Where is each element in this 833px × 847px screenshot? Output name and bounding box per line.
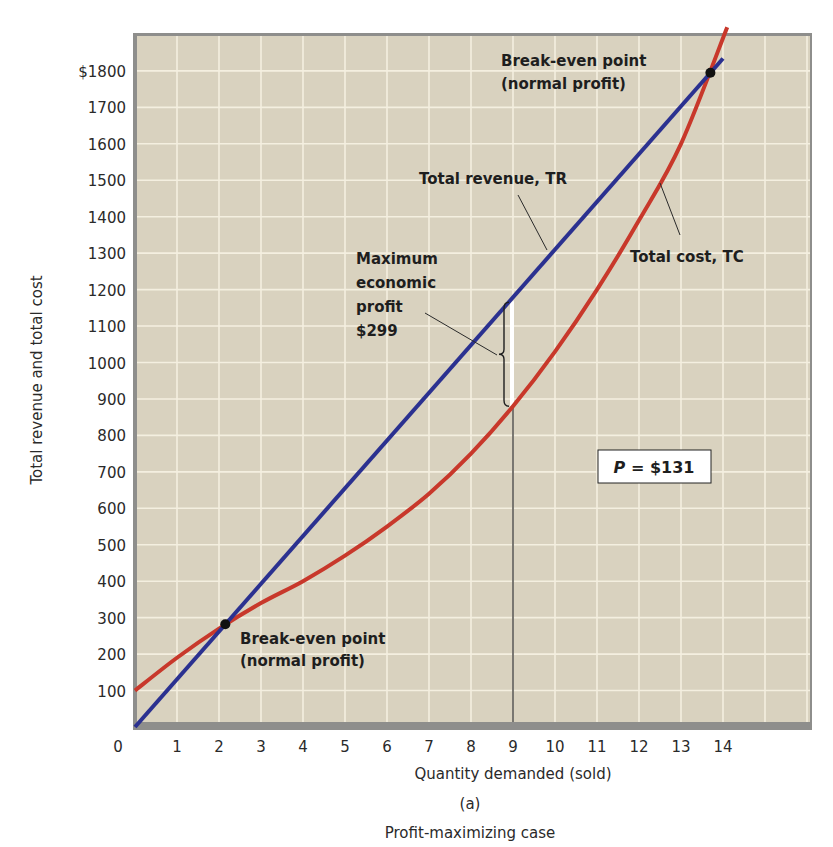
- x-tick-label: 6: [382, 738, 392, 756]
- x-tick-label: 11: [587, 738, 606, 756]
- x-tick-label: 3: [256, 738, 266, 756]
- y-tick-label: 1300: [88, 245, 126, 263]
- break-even-high-label-line1: Break-even point: [501, 52, 646, 70]
- max-profit-label-line2: economic: [356, 274, 436, 292]
- y-tick-label: $1800: [78, 63, 126, 81]
- y-tick-label: 1200: [88, 282, 126, 300]
- y-tick-label: 500: [97, 537, 126, 555]
- y-tick-label: 1500: [88, 172, 126, 190]
- x-axis-title: Quantity demanded (sold): [414, 765, 611, 783]
- x-tick-label: 12: [629, 738, 648, 756]
- x-tick-label: 14: [713, 738, 732, 756]
- max-profit-label-line1: Maximum: [356, 250, 438, 268]
- x-axis-ticks: 01234567891011121314: [113, 738, 732, 756]
- y-tick-label: 300: [97, 610, 126, 628]
- break-even-high-label-line2: (normal profit): [501, 75, 626, 93]
- x-tick-label: 4: [298, 738, 308, 756]
- y-tick-label: 1400: [88, 209, 126, 227]
- x-tick-label: 5: [340, 738, 350, 756]
- x-tick-label: 8: [466, 738, 476, 756]
- y-tick-label: 1000: [88, 355, 126, 373]
- y-tick-label: 600: [97, 500, 126, 518]
- y-axis-title: Total revenue and total cost: [28, 275, 46, 485]
- y-tick-label: 700: [97, 464, 126, 482]
- break-even-point-high: [705, 68, 715, 78]
- x-tick-label: 0: [113, 738, 123, 756]
- break-even-point-low: [220, 619, 230, 629]
- y-tick-label: 100: [97, 683, 126, 701]
- y-tick-label: 900: [97, 391, 126, 409]
- y-tick-label: 1700: [88, 99, 126, 117]
- max-profit-label-line4: $299: [356, 322, 398, 340]
- tr-label: Total revenue, TR: [419, 170, 567, 188]
- x-tick-label: 1: [172, 738, 182, 756]
- max-profit-label-line3: profit: [356, 298, 403, 316]
- y-tick-label: 200: [97, 646, 126, 664]
- y-tick-label: 800: [97, 427, 126, 445]
- x-tick-label: 13: [671, 738, 690, 756]
- chart-caption: Profit-maximizing case: [385, 824, 556, 842]
- x-tick-label: 9: [508, 738, 518, 756]
- tc-label: Total cost, TC: [630, 248, 744, 266]
- x-tick-label: 2: [214, 738, 224, 756]
- y-tick-label: 1100: [88, 318, 126, 336]
- y-axis-ticks: 1002003004005006007008009001000110012001…: [78, 63, 126, 701]
- chart: 1002003004005006007008009001000110012001…: [0, 0, 833, 847]
- break-even-low-label-line2: (normal profit): [240, 652, 365, 670]
- break-even-low-label-line1: Break-even point: [240, 630, 385, 648]
- plot-area: [137, 36, 810, 722]
- y-tick-label: 400: [97, 573, 126, 591]
- y-tick-label: 1600: [88, 136, 126, 154]
- x-tick-label: 10: [545, 738, 564, 756]
- price-box-label: P = $131: [614, 458, 695, 477]
- panel-letter: (a): [460, 795, 481, 813]
- x-tick-label: 7: [424, 738, 434, 756]
